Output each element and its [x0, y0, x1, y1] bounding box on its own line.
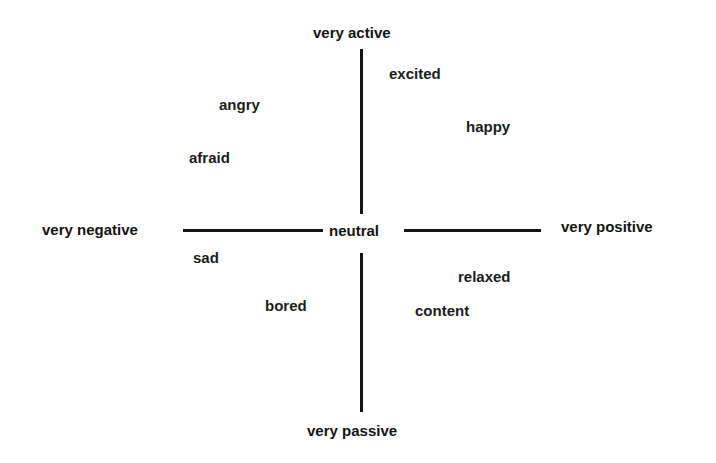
arousal-axis-upper-line — [360, 49, 363, 214]
axis-label-very-positive: very positive — [561, 218, 653, 236]
valence-axis-left-line — [183, 229, 323, 232]
emotion-label-angry: angry — [219, 96, 260, 114]
emotion-label-excited: excited — [389, 65, 441, 83]
valence-axis-right-line — [404, 229, 541, 232]
emotion-label-content: content — [415, 302, 469, 320]
emotion-label-bored: bored — [265, 297, 307, 315]
axis-label-very-active: very active — [313, 24, 391, 42]
emotion-label-sad: sad — [193, 249, 219, 267]
axis-label-very-negative: very negative — [42, 221, 138, 239]
emotion-label-happy: happy — [466, 118, 510, 136]
center-label-neutral: neutral — [329, 222, 379, 240]
arousal-axis-lower-line — [360, 253, 363, 412]
affect-circumplex-diagram: very active very passive very negative v… — [0, 0, 716, 463]
emotion-label-afraid: afraid — [189, 149, 230, 167]
axis-label-very-passive: very passive — [307, 422, 397, 440]
emotion-label-relaxed: relaxed — [458, 268, 511, 286]
